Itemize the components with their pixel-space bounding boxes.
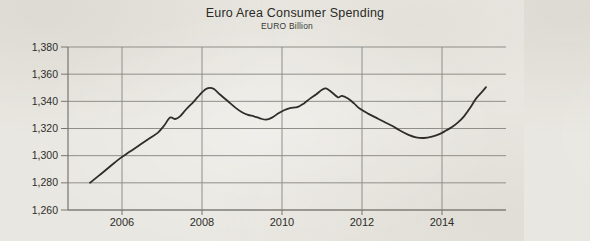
y-tick-label: 1,340	[32, 95, 58, 107]
y-tick-label: 1,380	[32, 41, 58, 53]
y-tick-label: 1,280	[32, 176, 58, 188]
y-tick-label: 1,300	[32, 149, 58, 161]
y-tick-label: 1,360	[32, 68, 58, 80]
y-tick-label: 1,320	[32, 122, 58, 134]
x-tick-label: 2008	[190, 216, 214, 228]
x-tick-label: 2010	[270, 216, 294, 228]
x-tick-label: 2006	[110, 216, 134, 228]
x-tick-label: 2012	[350, 216, 374, 228]
y-tick-label: 1,260	[32, 204, 58, 216]
x-tick-label: 2014	[430, 216, 454, 228]
